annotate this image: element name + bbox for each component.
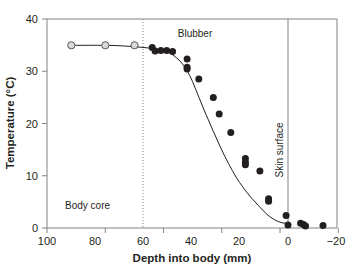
data-point-filled: [169, 48, 176, 55]
data-point-filled: [285, 221, 292, 228]
x-tick-label-20: 20: [233, 235, 245, 247]
y-tick-label-10: 10: [26, 170, 38, 182]
data-point-filled: [320, 222, 327, 229]
data-point-open: [102, 42, 109, 49]
y-axis-tick-labels: 40 30 20 10 0: [26, 13, 38, 234]
y-axis-ticks: [42, 19, 47, 228]
data-point-open: [68, 42, 75, 49]
x-tick-label-40: 40: [185, 235, 197, 247]
filled-circle-points: [149, 44, 327, 229]
data-point-filled: [210, 94, 217, 101]
data-point-filled: [184, 65, 191, 72]
x-tick-label-0: 0: [285, 235, 291, 247]
x-tick-label-60: 60: [137, 235, 149, 247]
data-point-filled: [216, 111, 223, 118]
x-tick-label-minus20: −20: [327, 235, 346, 247]
annotation-skin-surface: Skin surface: [274, 122, 285, 177]
y-tick-label-20: 20: [26, 118, 38, 130]
temperature-depth-chart: 40 30 20 10 0 100 80 60 40 20 0 −20: [0, 0, 357, 275]
data-point-filled: [283, 212, 290, 219]
y-tick-label-40: 40: [26, 13, 38, 25]
data-point-filled: [227, 129, 234, 136]
x-axis-title: Depth into body (mm): [133, 252, 252, 264]
x-tick-label-80: 80: [89, 235, 101, 247]
data-point-filled: [184, 56, 191, 63]
data-point-filled: [302, 222, 309, 229]
annotation-body-core: Body core: [65, 200, 110, 211]
data-point-filled: [256, 168, 263, 175]
x-axis-ticks: [47, 228, 338, 233]
data-point-filled: [163, 47, 170, 54]
y-tick-label-0: 0: [32, 222, 38, 234]
annotation-blubber: Blubber: [178, 28, 213, 39]
y-axis-title: Temperature (°C): [4, 77, 16, 170]
x-axis-tick-labels: 100 80 60 40 20 0 −20: [38, 235, 346, 247]
data-point-filled: [265, 198, 272, 205]
data-point-filled: [195, 76, 202, 83]
axis-frame: [47, 19, 337, 228]
data-point-filled: [242, 161, 249, 168]
data-point-open: [131, 42, 138, 49]
y-tick-label-30: 30: [26, 65, 38, 77]
chart-figure: 40 30 20 10 0 100 80 60 40 20 0 −20: [0, 0, 357, 275]
fit-curve: [71, 45, 288, 223]
x-tick-label-100: 100: [38, 235, 56, 247]
